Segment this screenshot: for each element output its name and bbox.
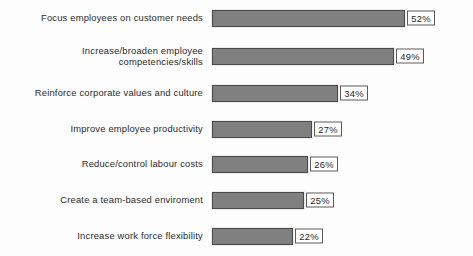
category-label: Reduce/control labour costs	[0, 158, 212, 169]
bar-track: 27%	[212, 115, 473, 143]
bar-value-label: 26%	[310, 157, 338, 172]
bar	[212, 192, 304, 209]
category-label: Create a team-based enviroment	[0, 194, 212, 205]
bar	[212, 85, 338, 102]
bar	[212, 10, 405, 27]
bar	[212, 156, 308, 173]
chart-row: Focus employees on customer needs 52%	[0, 4, 473, 32]
category-label: Focus employees on customer needs	[0, 12, 212, 23]
chart-row: Increase/broaden employee competencies/s…	[0, 40, 473, 72]
horizontal-bar-chart: Focus employees on customer needs 52% In…	[0, 0, 473, 256]
bar-track: 49%	[212, 40, 473, 72]
bar	[212, 228, 293, 245]
bar-track: 26%	[212, 150, 473, 178]
category-label: Reinforce corporate values and culture	[0, 87, 212, 98]
chart-row: Reinforce corporate values and culture 3…	[0, 79, 473, 107]
chart-row: Increase work force flexibility 22%	[0, 222, 473, 250]
bar-value-label: 49%	[396, 49, 424, 64]
bar-value-label: 25%	[306, 193, 334, 208]
bar-value-label: 52%	[407, 11, 435, 26]
chart-row: Improve employee productivity 27%	[0, 115, 473, 143]
bar	[212, 48, 394, 65]
chart-row: Reduce/control labour costs 26%	[0, 150, 473, 178]
bar-track: 25%	[212, 186, 473, 214]
bar-value-label: 34%	[340, 86, 368, 101]
category-label: Increase work force flexibility	[0, 230, 212, 241]
chart-row: Create a team-based enviroment 25%	[0, 186, 473, 214]
bar-value-label: 22%	[295, 229, 323, 244]
bar-track: 34%	[212, 79, 473, 107]
bar-value-label: 27%	[314, 122, 342, 137]
bar-track: 52%	[212, 4, 473, 32]
category-label: Increase/broaden employee competencies/s…	[0, 45, 212, 67]
category-label: Improve employee productivity	[0, 123, 212, 134]
bar-track: 22%	[212, 222, 473, 250]
bar	[212, 121, 312, 138]
